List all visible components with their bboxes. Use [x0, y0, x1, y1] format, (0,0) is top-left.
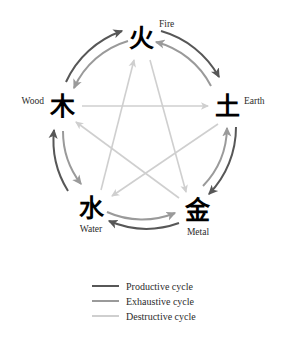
node-water: 水 Water: [79, 194, 105, 234]
destructive-cycle-group: [76, 60, 218, 198]
node-metal-glyph: 金: [184, 196, 211, 225]
legend: Productive cycle Exhaustive cycle Destru…: [92, 281, 196, 322]
wuxing-diagram: 火 Fire 土 Earth 金 Metal 水 Water 木 Wood: [0, 0, 282, 339]
node-metal-label: Metal: [187, 227, 210, 237]
productive-edge-fire-earth: [161, 31, 219, 77]
node-wood-label: Wood: [22, 96, 45, 106]
productive-edge-metal-water: [109, 221, 179, 229]
node-metal: 金 Metal: [184, 196, 211, 237]
exhaustive-edge-metal-earth: [203, 128, 227, 186]
node-fire: 火 Fire: [129, 19, 175, 53]
node-wood-glyph: 木: [49, 92, 75, 121]
exhaustive-edge-water-metal: [107, 212, 175, 220]
exhaustive-edge-fire-wood: [74, 41, 128, 88]
productive-edge-water-wood: [53, 130, 68, 191]
node-fire-label: Fire: [159, 19, 174, 29]
element-nodes-group: 火 Fire 土 Earth 金 Metal 水 Water 木 Wood: [22, 19, 265, 237]
diagram-canvas: 火 Fire 土 Earth 金 Metal 水 Water 木 Wood: [0, 0, 282, 339]
node-water-label: Water: [80, 224, 103, 234]
node-fire-glyph: 火: [129, 24, 154, 53]
legend-item-exhaustive: Exhaustive cycle: [92, 296, 195, 307]
legend-label-destructive: Destructive cycle: [126, 311, 196, 322]
node-earth: 土 Earth: [215, 92, 265, 121]
destructive-edge-metal-wood: [76, 122, 179, 198]
legend-item-productive: Productive cycle: [92, 281, 193, 292]
node-water-glyph: 水: [79, 194, 105, 223]
legend-label-exhaustive: Exhaustive cycle: [126, 296, 195, 307]
productive-edge-earth-metal: [209, 127, 236, 194]
productive-edge-wood-fire: [66, 31, 122, 82]
node-earth-label: Earth: [244, 96, 265, 106]
destructive-edge-fire-metal: [150, 60, 186, 192]
node-earth-glyph: 土: [215, 92, 240, 121]
destructive-edge-water-fire: [101, 60, 134, 190]
exhaustive-edge-earth-fire: [156, 42, 211, 86]
node-wood: 木 Wood: [22, 92, 75, 121]
legend-label-productive: Productive cycle: [126, 281, 193, 292]
exhaustive-edge-wood-water: [63, 131, 81, 184]
legend-item-destructive: Destructive cycle: [92, 311, 196, 322]
